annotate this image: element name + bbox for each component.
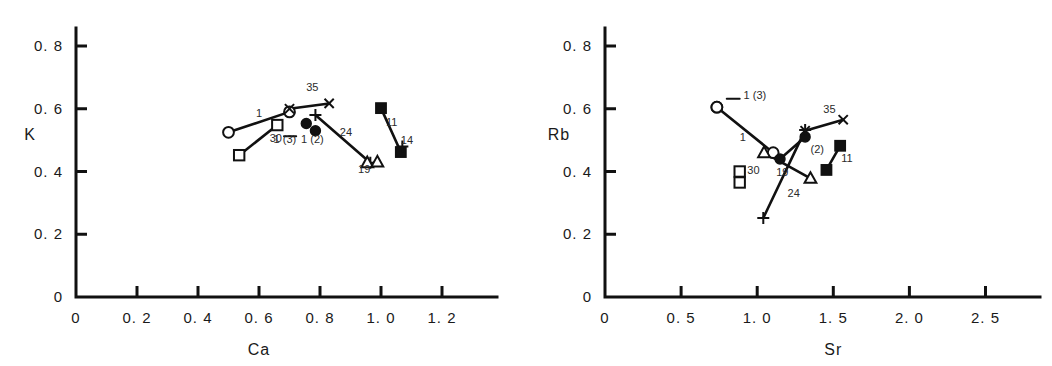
y-tick-label-1: 0. 2 [563, 225, 592, 242]
data-point-30-1 [734, 177, 744, 187]
series-label-19: 19 [776, 166, 788, 178]
axes-group-left [76, 28, 497, 297]
y-tick-label-2: 0. 4 [34, 163, 63, 180]
marker-plus [757, 212, 769, 224]
data-point-(2)-0 [775, 154, 785, 164]
axis-lines [605, 28, 1040, 297]
marker-filled-circle [301, 118, 311, 128]
data-point-30-0 [734, 166, 744, 176]
data-point-19-1 [371, 156, 383, 167]
y-tick-label-1: 0. 2 [34, 225, 63, 242]
data-point-30-1 [272, 120, 282, 130]
series-label-35: 35 [306, 81, 318, 93]
series-label-14: 14 [401, 134, 413, 146]
marker-filled-circle [775, 154, 785, 164]
x-axis-title-right: Sr [824, 341, 842, 358]
data-point-24-0 [757, 212, 769, 224]
y-tick-label-3: 0. 6 [34, 100, 63, 117]
x-tick-label-3: 0. 6 [244, 309, 273, 326]
figure-root: 00. 20. 40. 60. 800. 20. 40. 60. 81. 01.… [0, 0, 1052, 366]
x-tick-label-5: 2. 5 [971, 309, 1000, 326]
data-point-1-0 [223, 127, 234, 138]
chart-svg-left: 00. 20. 40. 60. 800. 20. 40. 60. 81. 01.… [0, 0, 526, 366]
marker-filled-square [396, 147, 406, 157]
x-tick-label-5: 1. 0 [366, 309, 395, 326]
marker-open-triangle [371, 156, 383, 167]
series-label-11: 11 [841, 152, 852, 164]
chart-panel-sr-rb: 00. 20. 40. 60. 800. 51. 01. 52. 02. 5Sr… [526, 0, 1052, 366]
y-axis-title-right: Rb [548, 126, 570, 143]
x-tick-label-3: 1. 5 [819, 309, 848, 326]
x-tick-label-1: 0. 5 [667, 309, 696, 326]
marker-filled-square [376, 103, 386, 113]
x-tick-label-6: 1. 2 [427, 309, 456, 326]
axis-lines [76, 28, 497, 297]
data-point-1-0 [711, 102, 722, 113]
chart-svg-right: 00. 20. 40. 60. 800. 51. 01. 52. 02. 5Sr… [526, 0, 1052, 366]
marker-open-circle [223, 127, 234, 138]
data-point-11-0 [376, 103, 386, 113]
x-tick-label-1: 0. 2 [122, 309, 151, 326]
data-point-11-0 [821, 165, 831, 175]
series-label-1: 1 [740, 131, 746, 143]
x-axis-title-left: Ca [248, 341, 270, 358]
series-line-35 [290, 103, 330, 108]
marker-open-square [272, 120, 282, 130]
series-label-11: 11 [386, 116, 397, 128]
series-label-35: 35 [823, 103, 835, 115]
marker-open-circle [711, 102, 722, 113]
series-line-35 [805, 120, 843, 131]
series-label-24: 24 [340, 126, 352, 138]
marker-open-square [734, 166, 744, 176]
marker-filled-square [821, 165, 831, 175]
y-tick-label-2: 0. 4 [563, 163, 592, 180]
series-label-19: 19 [358, 163, 370, 175]
series-label-1(2): 1 (2) [301, 133, 324, 145]
y-tick-label-3: 0. 6 [563, 100, 592, 117]
series-label-30: 30 [747, 164, 759, 176]
y-tick-label-4: 0. 8 [563, 37, 592, 54]
series-label-(2): (2) [811, 143, 824, 155]
chart-panel-ca-k: 00. 20. 40. 60. 800. 20. 40. 60. 81. 01.… [0, 0, 526, 366]
marker-filled-square [835, 141, 845, 151]
y-axis-title-left: K [24, 126, 36, 143]
x-tick-label-0: 0 [71, 309, 80, 326]
x-tick-label-0: 0 [600, 309, 609, 326]
series-label-1(3): 1 (3) [744, 89, 767, 101]
x-tick-label-4: 2. 0 [895, 309, 924, 326]
data-point-30-0 [234, 150, 244, 160]
data-point-11-1 [396, 147, 406, 157]
series-label-24: 24 [788, 187, 800, 199]
x-tick-label-4: 0. 8 [305, 309, 334, 326]
y-tick-label-0: 0 [583, 288, 592, 305]
marker-open-square [734, 177, 744, 187]
marker-open-square [234, 150, 244, 160]
data-point-1(3)-0 [301, 118, 311, 128]
x-tick-label-2: 1. 0 [743, 309, 772, 326]
y-tick-label-0: 0 [54, 288, 63, 305]
tick-label-group-left: 00. 20. 40. 60. 800. 20. 40. 60. 81. 01.… [34, 37, 457, 326]
data-point-11-1 [835, 141, 845, 151]
series-label-1: 1 [256, 107, 262, 119]
axes-group-right [605, 28, 1040, 297]
series-label-1(3): 1 (3) [274, 133, 297, 145]
y-tick-label-4: 0. 8 [34, 37, 63, 54]
x-tick-label-2: 0. 4 [183, 309, 212, 326]
